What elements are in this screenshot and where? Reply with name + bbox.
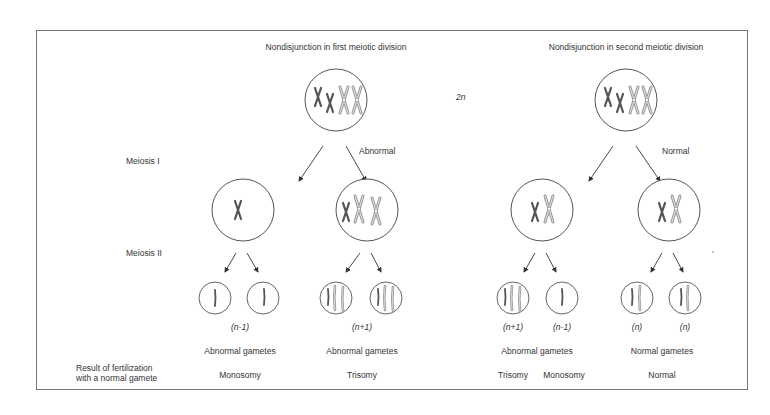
right-parent-cell	[595, 69, 657, 131]
gamete-n	[621, 282, 653, 314]
left-meiosis1-cell-b	[336, 179, 398, 241]
result-monosomy: Monosomy	[219, 370, 261, 380]
arrow	[546, 253, 556, 272]
gamete-n-plus-1	[370, 282, 402, 314]
meiosis-2-label: Meiosis II	[126, 248, 162, 258]
gamete-n-minus-1	[247, 282, 279, 314]
count-label: (n+1)	[352, 322, 372, 332]
arrow	[225, 253, 236, 272]
result-trisomy: Trisomy	[347, 370, 377, 380]
gamete-n-minus-1	[199, 282, 231, 314]
result-normal: Normal	[648, 370, 675, 380]
arrow	[589, 146, 613, 181]
fertilization-label-line1: Result of fertilization	[76, 363, 157, 373]
count-label: (n)	[680, 322, 690, 332]
left-parent-cell	[305, 69, 367, 131]
result-trisomy: Trisomy	[498, 370, 528, 380]
status-normal: Normal	[662, 146, 689, 156]
gamete-type-label: Abnormal gametes	[204, 346, 275, 356]
right-meiosis1-cell-b	[638, 179, 700, 241]
speck	[712, 251, 714, 253]
arrow	[524, 253, 535, 272]
arrow	[247, 253, 258, 272]
right-meiosis1-cell-a	[511, 179, 573, 241]
meiosis-1-label: Meiosis I	[126, 156, 160, 166]
arrow	[371, 253, 381, 272]
arrow	[346, 253, 360, 272]
arrow	[651, 253, 662, 272]
left-meiosis1-cell-a	[212, 179, 274, 241]
gamete-type-label: Normal gametes	[631, 346, 693, 356]
count-label: (n+1)	[503, 322, 523, 332]
result-monosomy: Monosomy	[543, 370, 585, 380]
gamete-n	[669, 282, 701, 314]
gamete-n-plus-1	[497, 282, 529, 314]
heading-second-meiotic-division: Nondisjunction in second meiotic divisio…	[549, 42, 704, 52]
count-label: (n-1)	[553, 322, 571, 332]
gamete-type-label: Abnormal gametes	[501, 346, 572, 356]
arrow	[299, 146, 323, 181]
gamete-n-plus-1	[320, 282, 352, 314]
fertilization-label: Result of fertilization with a normal ga…	[76, 363, 157, 383]
status-abnormal: Abnormal	[359, 146, 395, 156]
ploidy-label: 2n	[456, 92, 465, 102]
arrow	[636, 146, 660, 181]
count-label: (n-1)	[231, 322, 249, 332]
gamete-n-minus-1	[546, 282, 578, 314]
arrow	[673, 253, 683, 272]
heading-first-meiotic-division: Nondisjunction in first meiotic division	[266, 42, 407, 52]
fertilization-label-line2: with a normal gamete	[76, 373, 157, 383]
gamete-type-label: Abnormal gametes	[326, 346, 397, 356]
count-label: (n)	[632, 322, 642, 332]
